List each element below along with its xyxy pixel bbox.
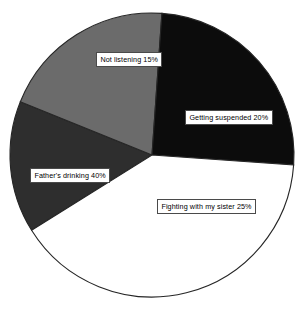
pie-slice-fighting-with-my-sister — [152, 13, 294, 165]
pie-label-fighting-with-my-sister: Fighting with my sister 25% — [157, 199, 256, 214]
pie-chart-canvas — [0, 0, 307, 311]
pie-chart: Not listening 15% Getting suspended 20% … — [0, 0, 307, 311]
pie-label-getting-suspended: Getting suspended 20% — [185, 110, 273, 125]
pie-label-not-listening: Not listening 15% — [96, 52, 162, 67]
pie-label-fathers-drinking: Father's drinking 40% — [30, 168, 110, 183]
